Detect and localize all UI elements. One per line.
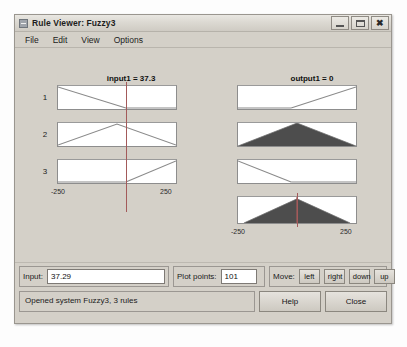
input-column-title: input1 = 37.3 [71,74,191,83]
menu-view[interactable]: View [77,34,106,46]
plot-points-group: Plot points: [173,266,265,287]
move-left-button[interactable]: left [299,269,320,284]
status-bar: Opened system Fuzzy3, 3 rules [19,291,255,312]
close-icon: ✖ [376,19,384,28]
rule-viewer-window: Rule Viewer: Fuzzy3 ✖ File Edit View Opt… [14,14,392,324]
consequent-plot-rule-2[interactable] [237,122,357,147]
input-axis-min-label: -250 [51,188,65,195]
input-indicator-line[interactable] [126,82,127,212]
menu-file[interactable]: File [21,34,46,46]
input-field-label: Input: [23,272,43,281]
close-action-button[interactable]: Close [325,291,387,312]
maximize-icon [356,20,365,27]
rule-label-3: 3 [40,167,50,176]
output-centroid-indicator-line[interactable] [297,193,298,227]
screenshot-root: Rule Viewer: Fuzzy3 ✖ File Edit View Opt… [0,0,407,347]
menu-options[interactable]: Options [110,34,150,46]
consequent-plot-rule-3[interactable] [237,159,357,184]
rule-label-1: 1 [40,93,50,102]
input-input[interactable] [47,269,165,284]
output-axis-min-label: -250 [231,228,245,235]
window-title: Rule Viewer: Fuzzy3 [32,18,115,28]
maximize-button[interactable] [351,16,369,30]
consequent-plot-rule-1[interactable] [237,85,357,110]
menubar: File Edit View Options [15,32,391,48]
control-row-top: Input: Plot points: Move: left right dow… [19,266,387,287]
plot-points-label: Plot points: [177,272,217,281]
move-down-button[interactable]: down [349,269,370,284]
move-label: Move: [273,272,295,281]
minimize-icon [336,25,344,27]
move-group: Move: left right down up [269,266,387,287]
control-row-bottom: Opened system Fuzzy3, 3 rules Help Close [19,291,387,312]
close-button[interactable]: ✖ [371,16,389,30]
move-right-button[interactable]: right [324,269,345,284]
move-up-button[interactable]: up [374,269,395,284]
input-axis-max-label: 250 [160,188,172,195]
window-titlebar[interactable]: Rule Viewer: Fuzzy3 ✖ [15,15,391,32]
input-field-group: Input: [19,266,169,287]
minimize-button[interactable] [331,16,349,30]
output-column-title: output1 = 0 [252,74,372,83]
rule-plot-area: input1 = 37.3 output1 = 0 1 2 3 [15,48,391,263]
help-button[interactable]: Help [259,291,321,312]
antecedent-plot-rule-3[interactable] [57,159,177,184]
menu-edit[interactable]: Edit [49,34,75,46]
window-controls: ✖ [331,16,389,30]
antecedent-plot-rule-1[interactable] [57,85,177,110]
output-axis-max-label: 250 [340,228,352,235]
matlab-window-icon [19,19,28,28]
plot-points-input[interactable] [221,269,257,284]
rule-label-2: 2 [40,130,50,139]
control-panel: Input: Plot points: Move: left right dow… [15,263,391,323]
antecedent-plot-rule-2[interactable] [57,122,177,147]
